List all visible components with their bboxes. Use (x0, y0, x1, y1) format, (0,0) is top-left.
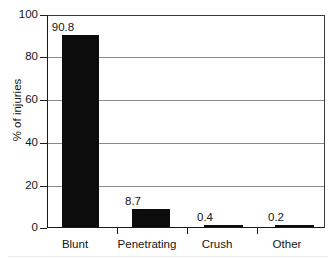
plot-area (47, 15, 325, 228)
bar-value-crush: 0.4 (183, 211, 227, 223)
x-label-crush: Crush (182, 238, 252, 250)
bar-chart-figure: % of injuries 100 80 60 40 20 0 90.8 8.7… (0, 0, 334, 258)
bar-value-other: 0.2 (254, 211, 298, 223)
scan-artifact-line (8, 256, 328, 257)
bar-value-blunt: 90.8 (41, 21, 85, 33)
bar-blunt (62, 35, 99, 227)
bar-crush (204, 225, 243, 227)
y-tick-mark-100 (40, 15, 47, 16)
y-tick-label-100: 100 (0, 9, 38, 21)
x-tick-mark-2 (187, 228, 188, 234)
y-tick-label-80: 80 (0, 51, 38, 63)
y-tick-label-20: 20 (0, 180, 38, 192)
y-tick-mark-80 (40, 57, 47, 58)
y-tick-mark-40 (40, 143, 47, 144)
y-tick-label-0: 0 (0, 222, 38, 234)
x-tick-mark-1 (117, 228, 118, 234)
x-tick-mark-3 (257, 228, 258, 234)
y-tick-mark-0 (40, 228, 47, 229)
y-tick-label-40: 40 (0, 137, 38, 149)
x-label-other: Other (252, 238, 322, 250)
bar-value-penetrating: 8.7 (111, 195, 155, 207)
x-label-penetrating: Penetrating (108, 238, 186, 250)
x-label-blunt: Blunt (40, 238, 110, 250)
y-tick-mark-20 (40, 186, 47, 187)
bar-penetrating (132, 209, 170, 227)
y-tick-mark-60 (40, 100, 47, 101)
y-tick-label-60: 60 (0, 94, 38, 106)
bar-other (275, 225, 314, 227)
y-axis-title: % of injuries (11, 55, 23, 165)
